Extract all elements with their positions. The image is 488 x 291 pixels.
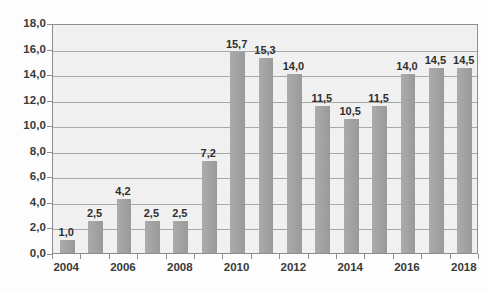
x-tick-mark [222, 254, 223, 259]
bar [315, 106, 330, 253]
bar [173, 221, 188, 253]
x-tick-mark [308, 254, 309, 259]
x-tick-mark [137, 254, 138, 259]
x-tick-label: 2016 [383, 262, 431, 274]
x-tick-label: 2010 [212, 262, 260, 274]
x-tick-mark [478, 254, 479, 259]
y-tick-label: 0,0 [2, 248, 46, 260]
bar [60, 240, 75, 253]
bar [401, 74, 416, 253]
x-tick-mark [279, 254, 280, 259]
bar [457, 68, 472, 253]
x-tick-mark [194, 254, 195, 259]
bar [117, 199, 132, 253]
x-tick-mark [421, 254, 422, 259]
y-tick-label: 10,0 [2, 120, 46, 132]
bar [145, 221, 160, 253]
y-tick-label: 4,0 [2, 197, 46, 209]
bar [287, 74, 302, 253]
x-tick-label: 2004 [42, 262, 90, 274]
bar [259, 58, 274, 254]
bar-value-label: 15,3 [244, 45, 286, 56]
x-tick-mark [109, 254, 110, 259]
x-tick-mark [364, 254, 365, 259]
bar [230, 52, 245, 253]
x-tick-label: 2014 [326, 262, 374, 274]
x-tick-label: 2018 [440, 262, 488, 274]
x-tick-mark [336, 254, 337, 259]
x-tick-mark [450, 254, 451, 259]
x-tick-mark [251, 254, 252, 259]
bar-value-label: 11,5 [301, 93, 343, 104]
bar-value-label: 2,5 [159, 208, 201, 219]
y-tick-label: 2,0 [2, 222, 46, 234]
bar-value-label: 14,0 [272, 61, 314, 72]
y-tick-label: 8,0 [2, 146, 46, 158]
bar-value-label: 10,5 [329, 106, 371, 117]
y-tick-label: 18,0 [2, 18, 46, 30]
x-tick-label: 2008 [156, 262, 204, 274]
x-tick-label: 2006 [99, 262, 147, 274]
bar-chart-figure: 0,02,04,06,08,010,012,014,016,018,0 1,02… [0, 0, 488, 291]
x-tick-mark [166, 254, 167, 259]
bar [88, 221, 103, 253]
y-tick-label: 14,0 [2, 69, 46, 81]
bar [429, 68, 444, 253]
y-tick-label: 12,0 [2, 95, 46, 107]
y-tick-label: 16,0 [2, 44, 46, 56]
bar-value-label: 2,5 [73, 208, 115, 219]
bar-value-label: 1,0 [45, 227, 87, 238]
bar [202, 161, 217, 253]
bar-value-label: 4,2 [102, 186, 144, 197]
x-tick-label: 2012 [269, 262, 317, 274]
x-tick-mark [52, 254, 53, 259]
x-tick-mark [393, 254, 394, 259]
bar-value-label: 7,2 [187, 148, 229, 159]
bar-value-label: 14,5 [443, 55, 485, 66]
bar-value-label: 11,5 [357, 93, 399, 104]
y-tick-label: 6,0 [2, 171, 46, 183]
bar [372, 106, 387, 253]
x-tick-mark [80, 254, 81, 259]
bar [344, 119, 359, 253]
